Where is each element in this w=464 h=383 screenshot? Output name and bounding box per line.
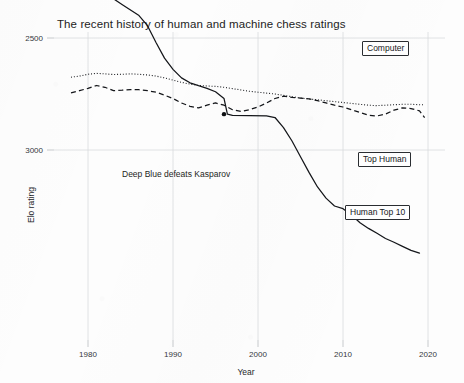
annotation-layer: Deep Blue defeats Kasparov — [122, 112, 231, 179]
event-marker-dot — [222, 112, 226, 116]
series-label-computer: Computer — [362, 41, 409, 56]
series-label-human-top-10: Human Top 10 — [345, 205, 410, 220]
chart-plot-area: 1980199020002010202025003000 Deep Blue d… — [0, 0, 464, 383]
x-tick-label: 2010 — [334, 350, 352, 359]
series-line-human-top-10 — [71, 73, 425, 105]
axis-ticks — [47, 38, 428, 347]
series-line-top-human — [71, 85, 425, 117]
axis-tick-labels: 1980199020002010202025003000 — [25, 34, 437, 359]
x-tick-label: 2000 — [249, 350, 267, 359]
y-tick-label: 2500 — [25, 34, 43, 43]
annotation-deep-blue: Deep Blue defeats Kasparov — [122, 169, 231, 179]
x-tick-label: 1990 — [164, 350, 182, 359]
y-tick-label: 3000 — [25, 146, 43, 155]
x-tick-label: 1980 — [79, 350, 97, 359]
chart-screenshot: The recent history of human and machine … — [0, 0, 464, 383]
gridlines — [54, 32, 445, 340]
x-tick-label: 2020 — [419, 350, 437, 359]
series-label-top-human: Top Human — [358, 152, 411, 167]
x-axis-title: Year — [237, 367, 254, 377]
y-axis-title: Elo rating — [26, 187, 36, 223]
